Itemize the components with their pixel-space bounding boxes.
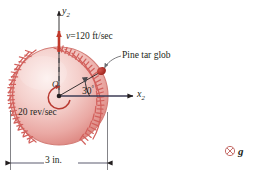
origin-dot bbox=[57, 94, 62, 99]
velocity-label: v=120 ft/sec bbox=[66, 32, 113, 42]
pine-tar-glob-label: Pine tar glob bbox=[122, 51, 171, 61]
gravity-into-page-icon bbox=[225, 146, 234, 155]
diameter-label: 3 in. bbox=[45, 156, 62, 166]
pine-tar-leader-line bbox=[105, 56, 122, 68]
spin-rate-label: 20 rev/sec bbox=[18, 108, 57, 118]
figure-canvas bbox=[0, 0, 255, 182]
origin-label: O bbox=[52, 80, 59, 89]
physics-figure: y2 v=120 ft/sec Pine tar glob O 30° x2 2… bbox=[0, 0, 255, 182]
x-axis-label: x2 bbox=[137, 89, 145, 102]
gravity-label: g bbox=[238, 146, 244, 157]
ball-highlight bbox=[19, 56, 67, 90]
angle-label: 30° bbox=[82, 85, 94, 97]
y-axis-label: y2 bbox=[62, 6, 70, 19]
